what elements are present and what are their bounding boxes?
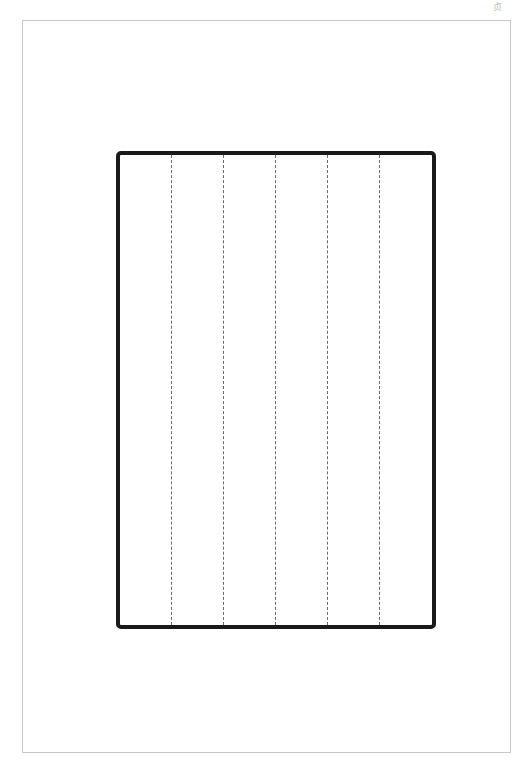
column-divider-5 (379, 155, 380, 625)
column-divider-4 (327, 155, 328, 625)
ruled-column-box (116, 151, 436, 629)
column-divider-3 (275, 155, 276, 625)
page-corner-mark: 贞 (484, 0, 510, 14)
column-divider-1 (171, 155, 172, 625)
column-divider-2 (223, 155, 224, 625)
